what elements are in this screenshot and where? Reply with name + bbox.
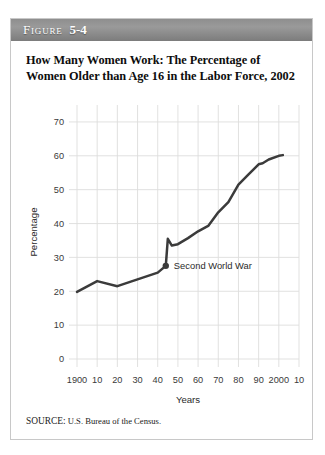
figure-title: How Many Women Work: The Percentage of W…	[26, 52, 296, 84]
svg-text:20: 20	[54, 287, 64, 297]
svg-text:50: 50	[173, 375, 183, 385]
svg-text:30: 30	[54, 253, 64, 263]
svg-text:20: 20	[112, 375, 122, 385]
second-world-war-marker	[163, 263, 169, 269]
svg-text:40: 40	[153, 375, 163, 385]
svg-text:60: 60	[193, 375, 203, 385]
svg-text:50: 50	[54, 185, 64, 195]
chart-area: 010203040506070 190010203040506070809020…	[11, 91, 312, 409]
svg-text:10: 10	[92, 375, 102, 385]
svg-text:30: 30	[132, 375, 142, 385]
y-axis-tick-labels: 010203040506070	[54, 117, 64, 364]
figure-number: 5-4	[70, 22, 87, 38]
svg-text:1900: 1900	[67, 375, 87, 385]
source-text: U.S. Bureau of the Census.	[66, 416, 161, 426]
svg-text:60: 60	[54, 151, 64, 161]
svg-text:2000: 2000	[269, 375, 289, 385]
svg-text:80: 80	[233, 375, 243, 385]
svg-text:40: 40	[54, 219, 64, 229]
line-chart: 010203040506070 190010203040506070809020…	[11, 91, 312, 409]
source-keyword: SOURCE:	[26, 416, 66, 426]
y-axis-title: Percentage	[28, 207, 39, 256]
source-note: SOURCE: U.S. Bureau of the Census.	[26, 416, 161, 426]
figure-label: Figure	[23, 22, 63, 38]
second-world-war-label: Second World War	[174, 260, 252, 271]
x-axis-title: Years	[176, 394, 200, 405]
svg-text:70: 70	[54, 117, 64, 127]
svg-text:90: 90	[254, 375, 264, 385]
vertical-gridlines	[77, 105, 299, 367]
x-axis-tick-labels: 1900102030405060708090200010	[67, 375, 304, 385]
svg-text:10: 10	[294, 375, 304, 385]
svg-text:70: 70	[213, 375, 223, 385]
svg-text:0: 0	[59, 354, 64, 364]
figure-header-bar: Figure 5-4	[11, 19, 312, 41]
svg-text:10: 10	[54, 320, 64, 330]
figure-card: Figure 5-4 How Many Women Work: The Perc…	[10, 18, 313, 440]
